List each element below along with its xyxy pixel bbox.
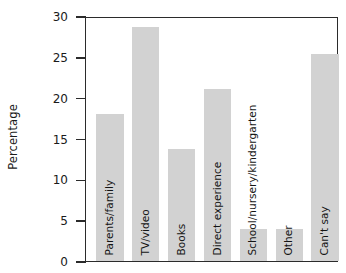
y-axis-title-label: Percentage bbox=[6, 104, 20, 170]
y-axis-tick-label: 5 bbox=[28, 215, 68, 227]
bar-category-label: Can't say bbox=[319, 206, 330, 255]
bar-chart: Percentage 302520151050 Parents/familyTV… bbox=[0, 0, 346, 273]
bar-category-label: Direct experience bbox=[212, 161, 223, 255]
y-axis-tick-label: 10 bbox=[28, 174, 68, 186]
y-axis-tick-labels: 302520151050 bbox=[28, 0, 68, 273]
y-axis-tick-label: 20 bbox=[28, 93, 68, 105]
bar-category-label: School/nursery/kindergarten bbox=[247, 104, 258, 255]
y-axis-tick-label: 25 bbox=[28, 52, 68, 64]
bar-category-label: TV/video bbox=[140, 209, 151, 255]
bar-category-label: Parents/family bbox=[104, 179, 115, 255]
bars-layer: Parents/familyTV/videoBooksDirect experi… bbox=[86, 18, 337, 261]
plot-area: Parents/familyTV/videoBooksDirect experi… bbox=[85, 17, 338, 262]
y-axis-tick-label: 0 bbox=[28, 256, 68, 268]
y-axis-title: Percentage bbox=[0, 0, 26, 273]
y-axis-tick-label: 30 bbox=[28, 11, 68, 23]
bar-category-label: Books bbox=[176, 223, 187, 255]
y-axis-tick-label: 15 bbox=[28, 134, 68, 146]
bar-category-label: Other bbox=[283, 225, 294, 255]
